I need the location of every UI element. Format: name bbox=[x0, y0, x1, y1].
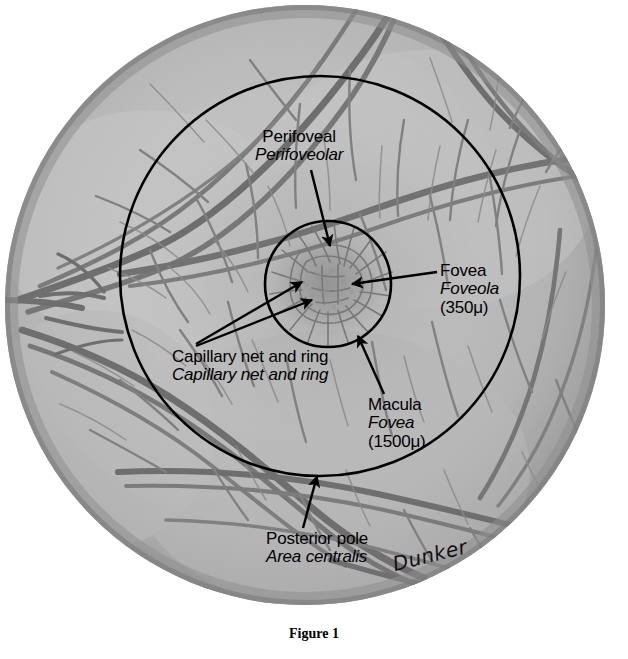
label-capillary-net: Capillary net and ring Capillary net and… bbox=[172, 348, 328, 385]
label-fovea-size: (350μ) bbox=[440, 299, 499, 317]
label-fovea: Fovea Foveola (350μ) bbox=[440, 262, 499, 317]
label-fovea-line2: Foveola bbox=[440, 280, 499, 298]
label-capillary-line2: Capillary net and ring bbox=[172, 366, 328, 384]
label-macula: Macula Fovea (1500μ) bbox=[368, 396, 426, 451]
label-posterior-line1: Posterior pole bbox=[266, 530, 368, 548]
label-perifoveal-line1: Perifoveal bbox=[255, 128, 343, 146]
label-capillary-line1: Capillary net and ring bbox=[172, 348, 328, 366]
label-macula-line2: Fovea bbox=[368, 414, 426, 432]
label-perifoveal-line2: Perifoveolar bbox=[255, 146, 343, 164]
figure-caption: Figure 1 bbox=[0, 626, 628, 642]
label-fovea-line1: Fovea bbox=[440, 262, 499, 280]
label-perifoveal: Perifoveal Perifoveolar bbox=[255, 128, 343, 165]
label-posterior-line2: Area centralis bbox=[266, 548, 368, 566]
label-posterior-pole: Posterior pole Area centralis bbox=[266, 530, 368, 567]
label-macula-size: (1500μ) bbox=[368, 433, 426, 451]
figure-container: Perifoveal Perifoveolar Fovea Foveola (3… bbox=[0, 0, 628, 659]
label-macula-line1: Macula bbox=[368, 396, 426, 414]
